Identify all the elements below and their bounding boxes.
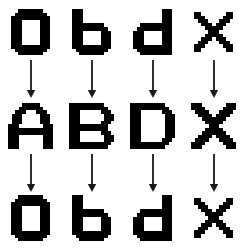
row-2-uppercase — [0, 100, 244, 152]
glyph-letter-x-small — [194, 198, 234, 238]
arrow-down-icon — [207, 154, 221, 192]
arrow-down-icon — [207, 60, 221, 98]
glyph-uppercase-x — [191, 103, 237, 149]
glyph-lowercase-b — [72, 9, 112, 56]
row-3-lowercase — [0, 194, 244, 242]
row-1-lowercase — [0, 8, 244, 56]
glyph-lowercase-d — [133, 195, 173, 242]
glyph-uppercase-a — [8, 103, 54, 149]
arrow-down-icon — [146, 60, 160, 98]
arrow-down-icon — [24, 154, 38, 192]
arrow-row-2 — [0, 154, 244, 192]
glyph-uppercase-b — [69, 103, 115, 149]
glyph-uppercase-d — [130, 103, 176, 149]
arrow-down-icon — [85, 60, 99, 98]
glyph-lowercase-a — [11, 9, 51, 56]
glyph-lowercase-d — [133, 9, 173, 56]
glyph-lowercase-b — [72, 195, 112, 242]
glyph-letter-x-small — [194, 12, 234, 52]
glyph-lowercase-a — [11, 195, 51, 242]
arrow-down-icon — [85, 154, 99, 192]
arrow-row-1 — [0, 60, 244, 98]
arrow-down-icon — [146, 154, 160, 192]
diagram-canvas — [0, 0, 244, 250]
arrow-down-icon — [24, 60, 38, 98]
